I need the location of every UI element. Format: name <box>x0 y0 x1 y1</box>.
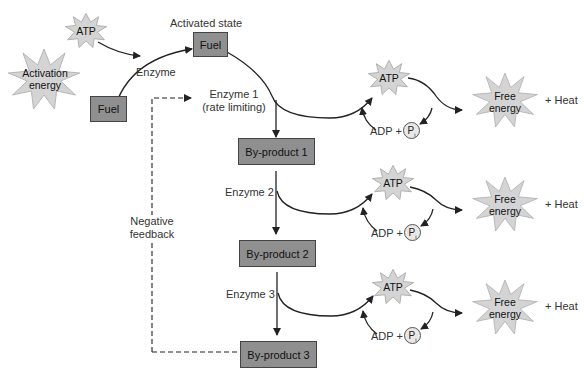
enzyme1-name: Enzyme 1 <box>192 88 276 101</box>
atp-cycle3-pi-circle: Pi <box>404 327 421 344</box>
atp-cycle2-pi-circle: Pi <box>404 224 421 241</box>
fuel-activated-box: Fuel <box>193 32 228 57</box>
negative-feedback-line2: feedback <box>123 228 181 241</box>
enzyme-label: Enzyme <box>136 66 176 79</box>
atp-cycle3-atp-label: ATP <box>379 281 407 293</box>
atp-cycle2-adp-label: ADP + <box>371 227 403 240</box>
atp-cycle3-adp-label: ADP + <box>371 330 403 343</box>
enzyme3-label: Enzyme 3 <box>226 288 275 301</box>
atp-cycle2-free-energy: Freeenergy <box>485 193 525 217</box>
atp-cycle1-free-energy: Freeenergy <box>485 90 525 114</box>
fuel-start-box: Fuel <box>90 96 127 122</box>
bp1-to-atp2-arrow <box>277 191 372 214</box>
negative-feedback-line1: Negative <box>123 215 181 228</box>
byproduct-1-box: By-product 1 <box>238 138 315 165</box>
atp-cycle1-atp-label: ATP <box>375 72 403 84</box>
activated-state-label: Activated state <box>170 17 242 30</box>
atp-activation-label: ATP <box>72 25 100 37</box>
atp-cycle1-adp-label: ADP + <box>370 125 402 138</box>
negative-feedback-label: Negative feedback <box>123 215 181 241</box>
activation-energy-line1: Activation <box>14 67 76 79</box>
atp-cycle2-atp-label: ATP <box>379 177 407 189</box>
activation-energy-line2: energy <box>14 79 76 91</box>
enzyme2-label: Enzyme 2 <box>225 186 274 199</box>
atp-cycle3-heat-label: + Heat <box>545 300 578 313</box>
activation-energy-label: Activation energy <box>14 67 76 91</box>
enzyme1-label: Enzyme 1 (rate limiting) <box>192 88 276 114</box>
atp-cycle1-heat-label: + Heat <box>545 94 578 107</box>
bp2-to-atp3-arrow <box>278 293 373 316</box>
atp-cycle3-free-energy: Freeenergy <box>485 296 525 320</box>
byproduct-2-box: By-product 2 <box>239 240 316 267</box>
byproduct-3-box: By-product 3 <box>240 341 317 368</box>
atp-cycle2-heat-label: + Heat <box>545 198 578 211</box>
atp-input-arrow <box>98 42 140 56</box>
enzyme1-rate-limiting: (rate limiting) <box>192 101 276 114</box>
atp-cycle1-pi-circle: Pi <box>403 122 420 139</box>
